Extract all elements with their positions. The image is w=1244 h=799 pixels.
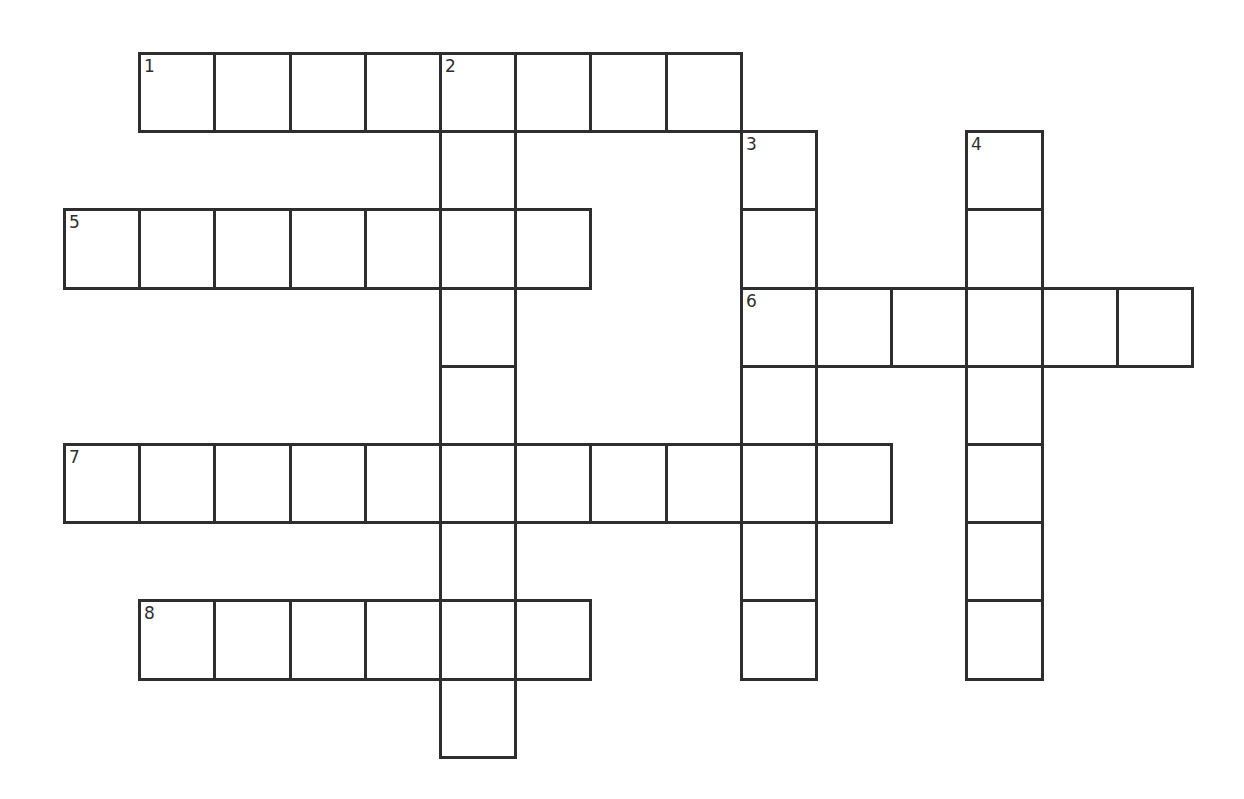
cell-input[interactable]: [367, 211, 439, 287]
cell-input[interactable]: [442, 290, 514, 365]
cell-input[interactable]: [367, 602, 439, 678]
crossword-cell[interactable]: [439, 443, 517, 524]
crossword-cell[interactable]: [740, 521, 818, 602]
cell-input[interactable]: [1044, 290, 1116, 365]
crossword-cell[interactable]: [213, 52, 292, 133]
crossword-cell[interactable]: [665, 52, 743, 133]
crossword-cell[interactable]: [439, 599, 517, 681]
cell-input[interactable]: [517, 446, 589, 521]
cell-input[interactable]: [668, 55, 740, 130]
cell-input[interactable]: [968, 211, 1041, 287]
cell-input[interactable]: [292, 446, 364, 521]
cell-input[interactable]: [968, 368, 1041, 443]
cell-input[interactable]: [968, 290, 1041, 365]
crossword-cell[interactable]: [815, 287, 893, 368]
cell-input[interactable]: [743, 446, 815, 521]
cell-input[interactable]: [292, 211, 364, 287]
crossword-cell[interactable]: [815, 443, 893, 524]
cell-input[interactable]: [968, 446, 1041, 521]
crossword-cell[interactable]: [213, 208, 292, 290]
cell-input[interactable]: [442, 211, 514, 287]
cell-input[interactable]: [592, 55, 665, 130]
crossword-cell[interactable]: [514, 52, 592, 133]
crossword-cell[interactable]: 1: [138, 52, 216, 133]
crossword-cell[interactable]: 8: [138, 599, 216, 681]
crossword-cell[interactable]: [364, 52, 442, 133]
crossword-cell[interactable]: [589, 443, 668, 524]
crossword-cell[interactable]: [439, 208, 517, 290]
cell-input[interactable]: [517, 55, 589, 130]
crossword-cell[interactable]: 2: [439, 52, 517, 133]
cell-input[interactable]: [668, 446, 740, 521]
cell-input[interactable]: [743, 602, 815, 678]
crossword-cell[interactable]: [439, 678, 517, 759]
crossword-cell[interactable]: [364, 208, 442, 290]
crossword-cell[interactable]: [965, 287, 1044, 368]
crossword-cell[interactable]: [439, 130, 517, 211]
cell-input[interactable]: [141, 211, 213, 287]
crossword-cell[interactable]: [138, 208, 216, 290]
crossword-cell[interactable]: [965, 365, 1044, 446]
cell-input[interactable]: [743, 211, 815, 287]
crossword-cell[interactable]: [740, 599, 818, 681]
cell-input[interactable]: [442, 446, 514, 521]
crossword-cell[interactable]: 6: [740, 287, 818, 368]
cell-input[interactable]: [442, 602, 514, 678]
crossword-cell[interactable]: [589, 52, 668, 133]
crossword-cell[interactable]: [1116, 287, 1194, 368]
crossword-cell[interactable]: [665, 443, 743, 524]
crossword-cell[interactable]: [213, 599, 292, 681]
crossword-cell[interactable]: [965, 599, 1044, 681]
crossword-cell[interactable]: [514, 599, 592, 681]
cell-input[interactable]: [818, 290, 890, 365]
cell-input[interactable]: [743, 368, 815, 443]
cell-input[interactable]: [442, 524, 514, 599]
cell-input[interactable]: [141, 602, 213, 678]
crossword-cell[interactable]: [364, 599, 442, 681]
crossword-cell[interactable]: [965, 521, 1044, 602]
crossword-cell[interactable]: [364, 443, 442, 524]
cell-input[interactable]: [743, 133, 815, 208]
cell-input[interactable]: [968, 602, 1041, 678]
cell-input[interactable]: [66, 446, 138, 521]
crossword-cell[interactable]: [289, 208, 367, 290]
cell-input[interactable]: [442, 368, 514, 443]
crossword-cell[interactable]: [213, 443, 292, 524]
cell-input[interactable]: [1119, 290, 1191, 365]
crossword-cell[interactable]: [740, 443, 818, 524]
crossword-cell[interactable]: [514, 443, 592, 524]
crossword-cell[interactable]: [740, 208, 818, 290]
crossword-cell[interactable]: [138, 443, 216, 524]
cell-input[interactable]: [292, 55, 364, 130]
crossword-cell[interactable]: 4: [965, 130, 1044, 211]
crossword-cell[interactable]: [514, 208, 592, 290]
cell-input[interactable]: [743, 524, 815, 599]
cell-input[interactable]: [216, 602, 289, 678]
cell-input[interactable]: [743, 290, 815, 365]
cell-input[interactable]: [968, 133, 1041, 208]
cell-input[interactable]: [442, 55, 514, 130]
cell-input[interactable]: [367, 446, 439, 521]
crossword-cell[interactable]: [289, 52, 367, 133]
crossword-cell[interactable]: [289, 443, 367, 524]
cell-input[interactable]: [367, 55, 439, 130]
cell-input[interactable]: [66, 211, 138, 287]
crossword-cell[interactable]: 5: [63, 208, 141, 290]
cell-input[interactable]: [442, 133, 514, 208]
crossword-cell[interactable]: [439, 521, 517, 602]
cell-input[interactable]: [292, 602, 364, 678]
cell-input[interactable]: [592, 446, 665, 521]
cell-input[interactable]: [216, 446, 289, 521]
crossword-cell[interactable]: [1041, 287, 1119, 368]
cell-input[interactable]: [517, 211, 589, 287]
crossword-cell[interactable]: 7: [63, 443, 141, 524]
cell-input[interactable]: [216, 55, 289, 130]
cell-input[interactable]: [968, 524, 1041, 599]
crossword-cell[interactable]: [890, 287, 968, 368]
cell-input[interactable]: [141, 446, 213, 521]
cell-input[interactable]: [893, 290, 965, 365]
crossword-cell[interactable]: [289, 599, 367, 681]
crossword-cell[interactable]: [965, 443, 1044, 524]
crossword-cell[interactable]: [439, 287, 517, 368]
crossword-cell[interactable]: [965, 208, 1044, 290]
